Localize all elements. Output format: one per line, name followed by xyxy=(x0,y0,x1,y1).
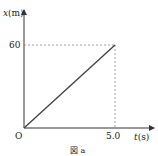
figure-caption: 図 a xyxy=(70,146,86,155)
y-axis-label: x(m) xyxy=(3,8,24,18)
x-tick-5: 5.0 xyxy=(106,131,121,141)
x-t-graph: x(m) 60 O 5.0 t(s) 図 a xyxy=(0,0,158,156)
data-line xyxy=(24,45,115,128)
origin-label: O xyxy=(15,131,22,141)
y-tick-60: 60 xyxy=(9,40,21,50)
x-axis-label: t(s) xyxy=(134,132,149,142)
